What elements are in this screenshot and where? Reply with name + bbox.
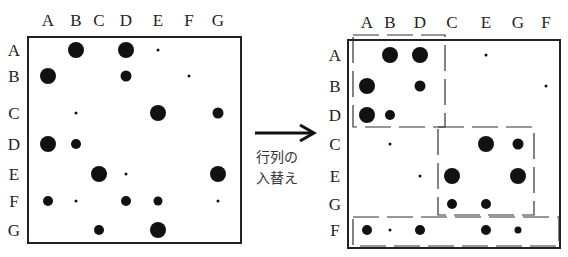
col-label: C xyxy=(446,13,457,32)
col-label: E xyxy=(481,13,491,32)
arrow-icon xyxy=(255,125,314,141)
col-label: F xyxy=(184,11,193,30)
matrix-dot xyxy=(125,173,128,176)
matrix-dot xyxy=(150,222,166,238)
matrix-dot xyxy=(217,200,220,203)
col-label: D xyxy=(414,13,426,32)
matrix-dot xyxy=(75,112,78,115)
matrix-dot xyxy=(481,225,491,235)
matrix-dot xyxy=(91,166,107,182)
matrix-dot xyxy=(382,47,398,63)
caption-line-2: 入替え xyxy=(256,170,298,186)
col-label: D xyxy=(120,11,132,30)
row-label: C xyxy=(329,135,340,154)
col-label: B xyxy=(384,13,395,32)
row-label: B xyxy=(329,77,340,96)
matrix-dot xyxy=(71,139,81,149)
matrix-dot xyxy=(75,200,78,203)
matrix-dot xyxy=(94,225,104,235)
matrix-dot xyxy=(481,199,491,209)
matrix-dot xyxy=(157,49,160,52)
matrix-reordering-diagram: ABCDEFGABCDEFG 行列の 入替え ABDCEGFABDCEGF xyxy=(0,0,568,257)
matrix-dot xyxy=(385,110,395,120)
col-label: G xyxy=(512,13,524,32)
matrix-dot xyxy=(40,68,56,84)
matrix-dot xyxy=(121,196,131,206)
row-label: E xyxy=(9,165,19,184)
block-outlines xyxy=(353,35,559,246)
col-label: C xyxy=(93,11,104,30)
matrix-dot xyxy=(419,175,422,178)
matrix-dot xyxy=(389,229,392,232)
matrix-dot xyxy=(513,139,524,150)
matrix-dot xyxy=(154,197,163,206)
matrix-dot xyxy=(68,42,84,58)
col-label: G xyxy=(212,11,224,30)
row-label: D xyxy=(8,135,20,154)
matrix-dot xyxy=(121,71,132,82)
col-label: A xyxy=(42,11,55,30)
row-label: E xyxy=(330,167,340,186)
row-label: A xyxy=(329,46,342,65)
right-matrix: ABDCEGFABDCEGF xyxy=(329,13,560,248)
row-label: F xyxy=(9,192,18,211)
row-label: F xyxy=(330,221,339,240)
matrix-dot xyxy=(40,136,56,152)
row-label: C xyxy=(8,104,19,123)
matrix-dot xyxy=(389,143,392,146)
matrix-dot xyxy=(478,136,494,152)
matrix-dot xyxy=(210,166,226,182)
left-matrix: ABCDEFGABCDEFG xyxy=(8,11,241,243)
matrix-dot xyxy=(150,105,166,121)
matrix-dot xyxy=(359,78,375,94)
row-label: A xyxy=(8,41,21,60)
matrix-dot xyxy=(545,85,548,88)
col-label: F xyxy=(541,13,550,32)
matrix-dot xyxy=(515,227,522,234)
row-label: D xyxy=(329,106,341,125)
matrix-dot xyxy=(485,54,488,57)
matrix-dot xyxy=(510,168,526,184)
matrix-dot xyxy=(359,107,375,123)
matrix-dot xyxy=(362,225,372,235)
matrix-dot xyxy=(188,75,191,78)
left-matrix-frame xyxy=(28,37,241,243)
col-label: B xyxy=(70,11,81,30)
matrix-dot xyxy=(412,47,428,63)
caption-line-1: 行列の xyxy=(256,149,298,165)
matrix-dot xyxy=(213,108,224,119)
row-label: G xyxy=(8,221,20,240)
matrix-dot xyxy=(43,196,53,206)
matrix-dot xyxy=(447,199,457,209)
col-label: A xyxy=(361,13,374,32)
matrix-dot xyxy=(415,225,425,235)
row-label: G xyxy=(329,195,341,214)
matrix-dot xyxy=(444,168,460,184)
row-label: B xyxy=(8,67,19,86)
matrix-dot xyxy=(118,42,134,58)
matrix-dot xyxy=(415,81,426,92)
col-label: E xyxy=(153,11,163,30)
